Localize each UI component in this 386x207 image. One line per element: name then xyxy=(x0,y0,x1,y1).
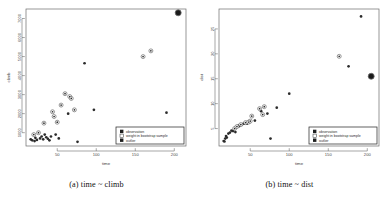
legend-marker-observation xyxy=(120,130,123,133)
data-point-bootstrap-core xyxy=(338,55,340,57)
data-point-observation xyxy=(234,131,237,134)
data-point-observation xyxy=(83,62,86,65)
data-point-observation xyxy=(93,108,96,111)
data-point-bootstrap-core xyxy=(60,104,62,106)
data-point-observation xyxy=(225,136,228,139)
data-point-observation xyxy=(43,133,46,136)
legend-label: weight in bootstrap sample xyxy=(126,134,168,138)
data-point-observation xyxy=(31,139,34,142)
y-axis-tick-label: 1000 xyxy=(17,127,22,137)
legend-label: weight in bootstrap sample xyxy=(319,134,361,138)
data-point-observation xyxy=(54,133,57,136)
data-point-outlier xyxy=(175,10,181,16)
legend-label: observation xyxy=(319,130,337,134)
y-axis-tick-label: 3000 xyxy=(17,89,22,99)
data-point-observation xyxy=(266,112,269,115)
data-point-bootstrap-core xyxy=(249,120,251,122)
data-point-bootstrap-core xyxy=(53,116,55,118)
data-point-bootstrap-core xyxy=(74,109,76,111)
data-point-observation xyxy=(275,106,278,109)
scatter-plot-climb: 1000200030004000500060007000climb5010015… xyxy=(0,0,193,180)
y-axis-tick-label: 25 xyxy=(210,26,215,31)
legend-marker-bootstrap xyxy=(120,134,123,137)
data-point-bootstrap-core xyxy=(70,98,72,100)
data-point-observation xyxy=(33,140,36,143)
data-point-observation xyxy=(36,139,39,142)
figure-panel-a: 1000200030004000500060007000climb5010015… xyxy=(0,0,193,207)
data-point-bootstrap-core xyxy=(263,106,265,108)
legend-marker-outlier xyxy=(120,139,123,142)
y-axis-tick-label: 20 xyxy=(210,51,215,56)
figure-panel-b: 510152025dist50100150200timeobservationw… xyxy=(193,0,386,207)
data-point-bootstrap-core xyxy=(245,122,247,124)
legend-marker-observation xyxy=(313,130,316,133)
data-point-observation xyxy=(223,140,226,143)
y-axis-tick-label: 10 xyxy=(210,101,215,106)
data-point-observation xyxy=(40,135,43,138)
scatter-plot-dist: 510152025dist50100150200timeobservationw… xyxy=(193,0,386,180)
x-axis-tick-label: 150 xyxy=(325,152,333,157)
legend-label: outlier xyxy=(126,139,136,143)
legend-marker-outlier xyxy=(313,139,316,142)
data-point-observation xyxy=(165,111,168,114)
data-point-bootstrap-core xyxy=(259,108,261,110)
plot-svg-a: 1000200030004000500060007000climb5010015… xyxy=(0,0,193,180)
data-point-bootstrap-core xyxy=(236,126,238,128)
data-point-observation xyxy=(360,15,363,18)
x-axis-tick-label: 200 xyxy=(171,152,179,157)
data-point-bootstrap-core xyxy=(64,93,66,95)
x-axis-tick-label: 200 xyxy=(364,152,372,157)
y-axis-tick-label: 5 xyxy=(210,127,215,130)
legend-marker-bootstrap xyxy=(313,134,316,137)
data-point-bootstrap-core xyxy=(43,122,45,124)
data-point-observation xyxy=(48,139,51,142)
data-point-observation xyxy=(50,135,53,138)
data-point-observation xyxy=(67,112,70,115)
data-point-outlier xyxy=(368,73,374,79)
y-axis-tick-label: 15 xyxy=(210,76,215,81)
x-axis-title: time xyxy=(295,161,304,166)
legend-label: observation xyxy=(126,130,144,134)
x-axis-tick-label: 50 xyxy=(248,152,253,157)
x-axis-tick-label: 150 xyxy=(132,152,140,157)
data-point-bootstrap-core xyxy=(52,111,54,113)
data-point-observation xyxy=(254,119,257,122)
y-axis-title: dist xyxy=(199,73,204,80)
y-axis-tick-label: 7000 xyxy=(17,13,22,23)
panel-caption-a: (a) time ~ climb xyxy=(0,180,193,189)
x-axis-tick-label: 50 xyxy=(55,152,60,157)
data-point-bootstrap-core xyxy=(262,114,264,116)
data-point-observation xyxy=(76,140,79,143)
data-point-observation xyxy=(288,92,291,95)
legend-label: outlier xyxy=(319,139,329,143)
data-point-observation xyxy=(269,137,272,140)
data-point-observation xyxy=(57,137,60,140)
data-point-bootstrap-core xyxy=(150,50,152,52)
data-point-bootstrap-core xyxy=(240,124,242,126)
x-axis-title: time xyxy=(102,161,111,166)
data-point-observation xyxy=(347,65,350,68)
x-axis-tick-label: 100 xyxy=(93,152,101,157)
y-axis-tick-label: 5000 xyxy=(17,51,22,61)
data-point-bootstrap-core xyxy=(38,132,40,134)
data-point-bootstrap-core xyxy=(56,121,58,123)
plot-svg-b: 510152025dist50100150200timeobservationw… xyxy=(193,0,386,180)
y-axis-title: climb xyxy=(6,72,11,83)
y-axis-tick-label: 4000 xyxy=(17,70,22,80)
y-axis-tick-label: 2000 xyxy=(17,108,22,118)
panel-caption-b: (b) time ~ dist xyxy=(193,180,386,189)
plot-frame xyxy=(219,9,379,146)
figure-row: 1000200030004000500060007000climb5010015… xyxy=(0,0,386,207)
data-point-observation xyxy=(42,138,45,141)
data-point-bootstrap-core xyxy=(251,115,253,117)
data-point-bootstrap-core xyxy=(33,134,35,136)
y-axis-tick-label: 6000 xyxy=(17,32,22,42)
data-point-bootstrap-core xyxy=(142,56,144,58)
plot-frame xyxy=(26,9,186,146)
x-axis-tick-label: 100 xyxy=(286,152,294,157)
